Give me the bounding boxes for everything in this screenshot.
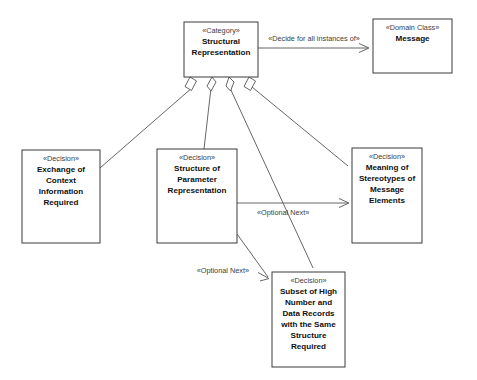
node-stereotype: «Category» (202, 26, 240, 35)
node-title-line: Structure (291, 331, 327, 340)
edge-aggregation-subset[interactable] (226, 77, 313, 268)
node-title-line: Data Records (282, 309, 335, 318)
node-stereotype: «Decision» (179, 153, 215, 162)
node-domain-class-message[interactable]: «Domain Class» Message (373, 19, 452, 73)
node-title-line: Parameter (177, 175, 217, 184)
edge-label-optional-next-meaning: «Optional Next» (257, 208, 309, 217)
node-title-line: Meaning of (366, 163, 409, 172)
node-title-line: Representation (192, 48, 251, 57)
node-category-structural-representation[interactable]: «Category» Structural Representation (184, 22, 258, 77)
node-title-line: Stereotypes of (359, 174, 416, 183)
node-title-line: Message (370, 185, 405, 194)
edge-aggregation-structure[interactable] (204, 77, 216, 149)
edge-optional-next-meaning[interactable]: «Optional Next» (237, 199, 349, 218)
node-stereotype: «Decision» (43, 154, 79, 163)
node-decision-structure-of-parameter-representation[interactable]: «Decision» Structure of Parameter Repres… (157, 149, 237, 243)
uml-diagram-canvas: «Decide for all instances of» «Optional … (0, 0, 477, 380)
node-title-line: Information (39, 187, 84, 196)
node-box (22, 150, 100, 243)
diagram-svg: «Decide for all instances of» «Optional … (0, 0, 477, 380)
node-title-line: Elements (369, 196, 405, 205)
node-stereotype: «Decision» (369, 152, 405, 161)
node-title-line: Exchange of (37, 165, 85, 174)
edge-decide-for-all-instances[interactable]: «Decide for all instances of» (258, 34, 369, 53)
node-title-line: Subset of High (280, 287, 337, 296)
node-title-line: Number and (285, 298, 332, 307)
aggregation-diamond-icon (185, 77, 197, 91)
aggregation-diamond-icon (226, 77, 234, 91)
edge-label-optional-next-subset: «Optional Next» (197, 266, 249, 275)
node-title-line: Context (46, 176, 76, 185)
aggregation-diamond-icon (207, 77, 216, 91)
node-title-line: Representation (168, 186, 227, 195)
node-title-line: Required (43, 198, 78, 207)
node-decision-exchange-of-context-information-required[interactable]: «Decision» Exchange of Context Informati… (22, 150, 100, 243)
edge-label-decide-for-all-instances: «Decide for all instances of» (268, 34, 360, 43)
node-stereotype: «Decision» (290, 276, 326, 285)
node-decision-subset-of-high-number-and-data-records[interactable]: «Decision» Subset of High Number and Dat… (272, 272, 345, 367)
node-title-line: Structure of (174, 164, 220, 173)
node-title-line: Structural (202, 37, 240, 46)
node-title-line: Required (291, 342, 326, 351)
node-decision-meaning-of-stereotypes-of-message-elements[interactable]: «Decision» Meaning of Stereotypes of Mes… (352, 148, 422, 243)
node-title-line: Message (395, 34, 430, 43)
node-stereotype: «Domain Class» (386, 23, 440, 32)
node-title-line: with the Same (280, 320, 336, 329)
